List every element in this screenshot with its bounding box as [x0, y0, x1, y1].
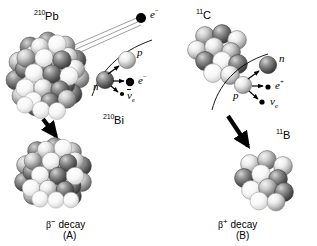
antineutrino-sub-e: e — [132, 96, 135, 103]
panel-a-inset-antineutrino-label: νe — [127, 90, 135, 103]
neutrino-sub-e: e — [275, 102, 278, 110]
panel-b-inset-neutrino-label: νe — [270, 96, 278, 110]
panel-a-inset-neutron-label: n — [93, 81, 99, 92]
panel-b-parent-label: 11C — [196, 8, 211, 21]
panel-a-inset-antineutrino-dot — [120, 92, 124, 96]
panel-b-id: (B) — [236, 231, 249, 241]
panel-a-inset-proton — [118, 51, 135, 68]
panel-a-daughter-label: 210Bi — [103, 113, 124, 126]
figure-canvas: 210Pb e− p e− n νe 210Bi β− decay (A) 11… — [0, 0, 317, 246]
panel-b-inset-positron-label: e+ — [275, 79, 284, 91]
antineutrino-nu-glyph: ν — [127, 90, 132, 101]
panel-a-parent-label: 210Pb — [34, 9, 59, 22]
panel-a-caption: β− decay — [46, 218, 85, 230]
panel-b-caption: β+ decay — [218, 218, 257, 230]
panel-b-daughter-label: 11B — [276, 128, 290, 141]
panel-a-decay-arrow — [43, 119, 56, 136]
panel-a-inset-proton-label: p — [137, 47, 143, 58]
panel-a-parent-nucleus — [6, 32, 89, 120]
panel-b-inset-neutrino-dot — [259, 99, 264, 104]
panel-a-daughter-nucleus — [15, 138, 92, 209]
panel-b-inset-neutron-label: n — [279, 53, 285, 64]
panel-a-id: (A) — [63, 231, 76, 241]
diagram-graphics — [0, 0, 317, 246]
panel-a-inset-electron-label: e− — [138, 74, 147, 86]
panel-b-daughter-nucleus — [235, 151, 294, 211]
panel-b-inset-neutron — [259, 56, 276, 73]
panel-a-electron-label: e− — [150, 8, 159, 20]
panel-b-parent-nucleus — [188, 25, 248, 85]
panel-a-inset-electron-dot — [126, 78, 134, 86]
panel-b-inset-proton-label: p — [233, 90, 239, 101]
panel-b-decay-arrow — [228, 116, 248, 146]
panel-a-emitted-electron-dot — [136, 13, 146, 23]
panel-b-inset-positron-dot — [265, 84, 270, 89]
panel-a-electron-trajectory — [72, 17, 141, 54]
